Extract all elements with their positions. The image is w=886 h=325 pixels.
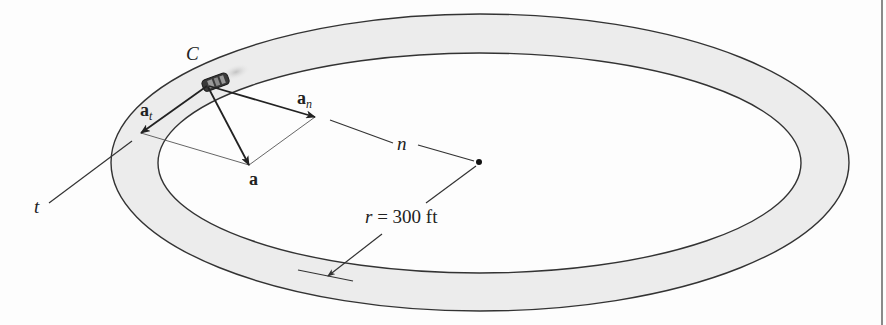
tangent-axis-label: t (34, 197, 39, 216)
normal-accel-label-base: a (297, 88, 306, 108)
radius-value: = 300 ft (372, 206, 437, 227)
normal-accel-label: an (297, 89, 312, 107)
diagram-svg (0, 0, 886, 325)
radius-label: r = 300 ft (365, 207, 437, 226)
track-diagram: C at an a n t r = 300 ft (0, 0, 886, 325)
total-accel-label: a (249, 170, 258, 188)
tangential-accel-label: at (140, 101, 152, 119)
center-point (476, 159, 482, 165)
normal-accel-label-sub: n (306, 97, 312, 111)
tangential-accel-label-sub: t (149, 109, 152, 123)
normal-axis-label: n (397, 134, 407, 153)
car-label: C (186, 44, 199, 63)
figure-border-right (881, 0, 883, 325)
tangential-accel-label-base: a (140, 100, 149, 120)
